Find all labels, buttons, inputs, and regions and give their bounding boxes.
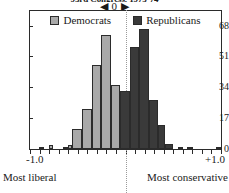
histogram-bar	[39, 147, 44, 149]
x-tick-mark	[87, 150, 88, 154]
x-axis-caption-left: Most liberal	[3, 172, 56, 183]
x-tick-mark	[135, 150, 136, 154]
x-tick-mark	[202, 150, 203, 154]
x-tick-mark	[173, 150, 174, 154]
histogram-bar	[49, 145, 54, 149]
histogram-bar	[82, 109, 92, 149]
x-tick-label-min: -1.0	[26, 154, 43, 165]
histogram-bar	[187, 147, 193, 149]
histogram-bar	[72, 129, 82, 149]
histogram-bar	[101, 35, 111, 149]
x-tick-mark	[164, 150, 165, 154]
histogram-bar	[92, 65, 102, 149]
x-tick-mark	[68, 150, 69, 154]
x-tick-mark	[106, 150, 107, 154]
histogram-bar	[158, 125, 165, 149]
chart-title: 93rd Congress, 1973-74	[0, 0, 229, 2]
histogram-bar	[111, 85, 121, 149]
x-tick-mark	[192, 150, 193, 154]
x-tick-mark	[59, 150, 60, 154]
histogram-bar	[178, 147, 184, 149]
x-tick-mark	[78, 150, 79, 154]
histogram-bar	[130, 47, 140, 149]
x-tick-mark	[116, 150, 117, 154]
x-tick-mark	[154, 150, 155, 154]
histogram-bar	[139, 29, 149, 149]
x-tick-label-max: +1.0	[205, 154, 225, 165]
x-tick-mark	[97, 150, 98, 154]
histogram-bar	[165, 144, 173, 149]
x-tick-mark	[145, 150, 146, 154]
histogram-bars	[30, 11, 221, 149]
x-tick-mark	[183, 150, 184, 154]
x-tick-mark	[49, 150, 50, 154]
histogram-bar	[149, 100, 159, 149]
chart-root: 93rd Congress, 1973-74 Democrats Republi…	[0, 0, 229, 193]
histogram-bar	[216, 147, 221, 149]
histogram-bar	[120, 91, 130, 149]
x-axis-caption-right: Most conservative	[147, 172, 228, 183]
